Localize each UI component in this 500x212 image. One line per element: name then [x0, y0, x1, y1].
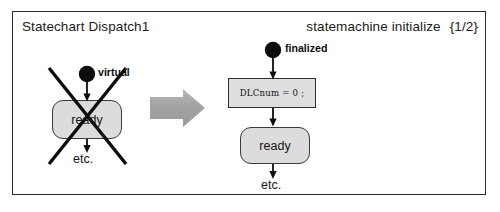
state-ready-after-label: ready	[259, 139, 290, 153]
arrowhead-action-to-ready	[269, 119, 276, 127]
state-ready-after: ready	[240, 127, 310, 164]
after-statechart-group: finalized DLCnum = 0 ; ready etc.	[0, 0, 500, 212]
initial-pseudostate-label-finalized: finalized	[285, 42, 327, 54]
continuation-label-after: etc.	[261, 178, 281, 192]
statechart-transformation-figure: Statechart Dispatch1 statemachine initia…	[0, 0, 500, 212]
action-state-code-box: DLCnum = 0 ;	[228, 78, 316, 108]
initial-pseudostate-circle-finalized	[265, 42, 281, 58]
action-code-text: DLCnum = 0 ;	[240, 88, 305, 98]
